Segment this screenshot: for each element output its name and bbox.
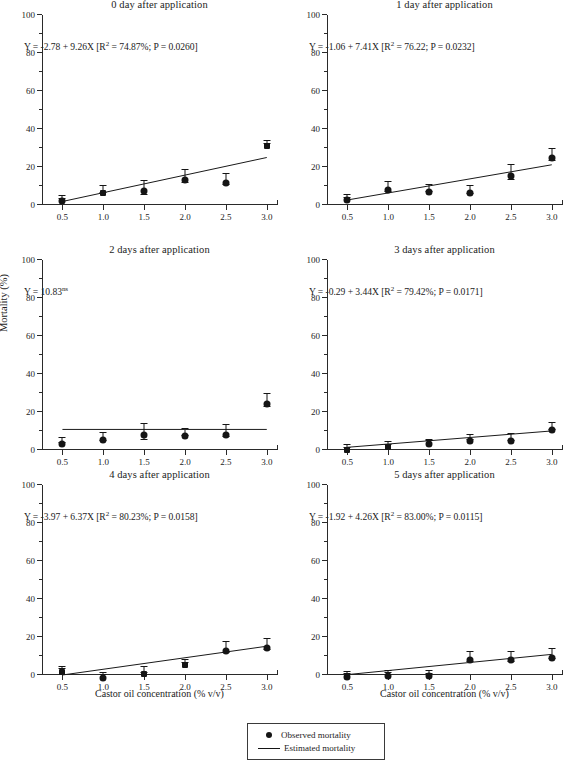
x-axis-title: Castor oil concentration (% v/v) (327, 688, 562, 699)
estimated-mortality-line (327, 260, 562, 450)
data-point (141, 671, 147, 677)
error-bar-cap (59, 666, 66, 667)
data-point (467, 657, 474, 664)
x-axis-tick-label: 2.0 (179, 457, 190, 467)
x-axis-tick (388, 450, 389, 455)
data-point (507, 438, 514, 445)
y-axis-tick-label: 80 (311, 293, 320, 303)
panel-0-day: 0 day after application Y = -2.78 + 9.26… (0, 0, 286, 225)
panel-title: 0 day after application (42, 0, 277, 10)
x-axis-tick-label: 2.5 (220, 457, 231, 467)
error-bar-cap (263, 140, 270, 141)
y-axis-tick-label: 60 (26, 86, 35, 96)
axis-end-cap (277, 445, 278, 450)
x-axis-tick (185, 450, 186, 455)
data-point (385, 444, 391, 450)
error-bar-cap (426, 184, 433, 185)
x-axis-tick (185, 675, 186, 680)
panel-title: 2 days after application (42, 244, 277, 255)
error-bar-cap (507, 433, 514, 434)
error-bar-cap (222, 641, 229, 642)
error-bar-cap (141, 666, 148, 667)
panel-3-days: 3 days after application Y = -0.29 + 3.4… (285, 245, 571, 470)
x-axis-tick-label: 2.5 (220, 212, 231, 222)
estimated-mortality-line (42, 260, 277, 450)
x-axis-title: Castor oil concentration (% v/v) (42, 688, 277, 699)
data-point (141, 188, 148, 195)
error-bar-cap (59, 195, 66, 196)
data-point (59, 669, 65, 675)
error-bar-cap (507, 651, 514, 652)
y-axis-tick-label: 100 (22, 255, 36, 265)
data-point (344, 447, 350, 453)
x-axis-tick (226, 205, 227, 210)
x-axis-tick-label: 1.5 (139, 457, 150, 467)
data-point (141, 432, 148, 439)
x-axis-tick (226, 450, 227, 455)
error-bar-cap (467, 434, 474, 435)
y-axis-tick-label: 80 (311, 518, 320, 528)
error-bar-cap (344, 444, 351, 445)
y-axis-tick-label: 80 (26, 518, 35, 528)
data-point (264, 143, 270, 149)
plot-area: 0204060801000.51.01.52.02.53.0 (42, 15, 277, 205)
data-point (426, 189, 433, 196)
x-axis-tick (511, 205, 512, 210)
error-bar-cap (141, 180, 148, 181)
error-bar-cap (182, 659, 189, 660)
x-axis-tick-label: 1.0 (98, 212, 109, 222)
x-axis-tick (388, 205, 389, 210)
panel-2-days: 2 days after application Y = 10.83ns 020… (0, 245, 286, 470)
x-axis-tick (144, 205, 145, 210)
error-bar-cap (426, 670, 433, 671)
x-axis-tick-label: 1.5 (424, 457, 435, 467)
x-axis-tick-label: 0.5 (342, 457, 353, 467)
x-axis-tick-label: 1.5 (139, 212, 150, 222)
error-bar-cap (100, 672, 107, 673)
panel-4-days: 4 days after application Y = -3.97 + 6.3… (0, 470, 286, 695)
x-axis-tick-label: 3.0 (261, 457, 272, 467)
axis-end-cap (277, 670, 278, 675)
x-axis-tick-label: 0.5 (57, 212, 68, 222)
x-axis-tick (470, 675, 471, 680)
data-point (426, 441, 433, 448)
data-point (385, 672, 392, 679)
x-axis-tick (62, 205, 63, 210)
data-point (344, 673, 351, 680)
x-axis-tick (103, 205, 104, 210)
y-axis-tick-label: 100 (307, 255, 321, 265)
error-bar-cap (385, 670, 392, 671)
x-axis-tick-label: 3.0 (546, 457, 557, 467)
x-axis-tick-label: 2.0 (179, 212, 190, 222)
data-point (182, 662, 188, 668)
y-axis-tick-label: 0 (316, 670, 321, 680)
error-bar-cap (507, 164, 514, 165)
y-axis-tick-label: 40 (26, 124, 35, 134)
x-axis-tick-label: 2.0 (464, 212, 475, 222)
x-axis-tick (511, 675, 512, 680)
y-axis-tick-label: 40 (26, 369, 35, 379)
y-axis-tick-label: 0 (316, 200, 321, 210)
error-bar-cap (263, 638, 270, 639)
x-axis-tick-label: 2.5 (505, 457, 516, 467)
y-axis-tick-label: 40 (311, 594, 320, 604)
mortality-regression-figure: Mortality (%) 0 day after application Y … (0, 0, 573, 760)
data-point (385, 187, 392, 194)
plot-area: 0204060801000.51.01.52.02.53.0 (42, 260, 277, 450)
panel-title: 5 days after application (327, 469, 562, 480)
error-bar-cap (100, 185, 107, 186)
error-bar-cap (548, 148, 555, 149)
error-bar-cap (222, 424, 229, 425)
axis-end-cap (277, 200, 278, 205)
error-bar-cap (141, 423, 148, 424)
error-bar-cap (222, 173, 229, 174)
x-axis-tick (552, 675, 553, 680)
data-point (100, 674, 107, 681)
y-axis-tick-label: 60 (311, 331, 320, 341)
y-axis-tick-label: 20 (311, 162, 320, 172)
x-axis-tick-label: 1.0 (383, 212, 394, 222)
x-axis-tick (226, 675, 227, 680)
error-bar-cap (344, 671, 351, 672)
y-axis-tick-label: 0 (316, 445, 321, 455)
error-bar-cap (385, 441, 392, 442)
